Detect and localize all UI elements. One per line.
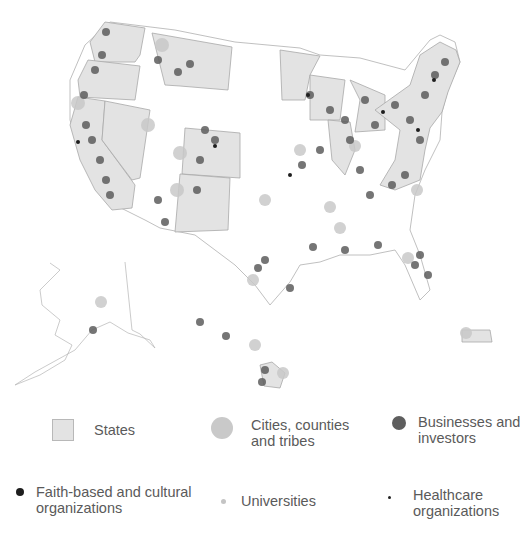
map-legend: States Cities, counties and tribes Busin…	[0, 405, 523, 535]
state-colorado	[182, 128, 240, 178]
legend-item-cities: Cities, counties and tribes	[211, 417, 349, 449]
medium-circle-icon	[392, 416, 406, 430]
legend-label-healthcare: Healthcare organizations	[413, 487, 499, 519]
large-circle-icon	[211, 417, 233, 439]
legend-label-cities: Cities, counties and tribes	[251, 417, 349, 449]
dot-icon	[388, 496, 391, 499]
tiny-circle-icon	[221, 499, 226, 504]
legend-item-states: States	[52, 419, 135, 441]
states-swatch-icon	[52, 419, 74, 441]
legend-label-universities: Universities	[241, 493, 316, 509]
legend-label-businesses: Businesses and investors	[418, 414, 520, 446]
small-circle-icon	[16, 488, 24, 496]
state-newmexico	[175, 174, 230, 232]
legend-label-faith: Faith-based and cultural organizations	[36, 484, 192, 516]
legend-label-states: States	[94, 422, 135, 438]
legend-item-universities: Universities	[221, 493, 316, 509]
legend-item-faith: Faith-based and cultural organizations	[16, 484, 192, 516]
state-wisconsin	[310, 75, 345, 120]
legend-item-healthcare: Healthcare organizations	[388, 487, 499, 519]
legend-item-businesses: Businesses and investors	[392, 414, 520, 446]
alaska-outline	[15, 262, 155, 385]
us-map	[0, 0, 523, 400]
